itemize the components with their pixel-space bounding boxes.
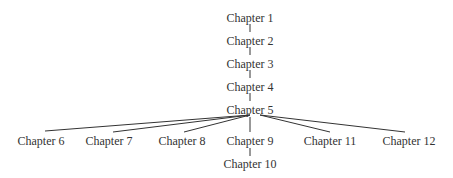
node-chapter-8: Chapter 8: [159, 135, 206, 147]
node-chapter-7: Chapter 7: [86, 135, 133, 147]
node-chapter-3: Chapter 3: [227, 58, 274, 70]
node-chapter-5: Chapter 5: [227, 104, 274, 116]
edge-ch5-ch11: [260, 115, 330, 132]
node-chapter-2: Chapter 2: [227, 35, 274, 47]
node-chapter-12: Chapter 12: [383, 135, 436, 147]
node-chapter-4: Chapter 4: [227, 81, 274, 93]
node-chapter-1: Chapter 1: [227, 12, 274, 24]
node-chapter-9: Chapter 9: [227, 135, 274, 147]
edge-ch5-ch12: [260, 115, 405, 132]
chapter-dependency-diagram: Chapter 1 Chapter 2 Chapter 3 Chapter 4 …: [0, 0, 453, 178]
node-chapter-10: Chapter 10: [224, 158, 277, 170]
node-chapter-6: Chapter 6: [18, 135, 65, 147]
edge-ch5-ch7: [113, 115, 250, 132]
node-chapter-11: Chapter 11: [304, 135, 357, 147]
